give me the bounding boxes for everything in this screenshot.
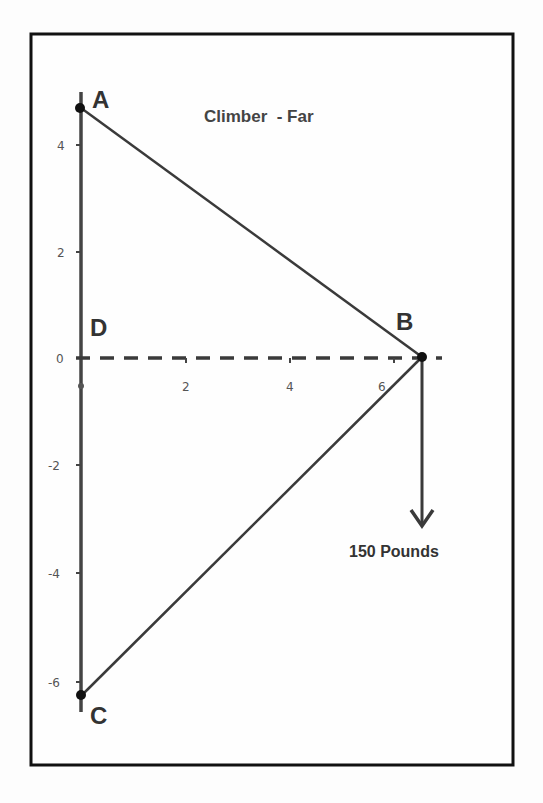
point-c — [76, 690, 86, 700]
label-c: C — [90, 702, 107, 729]
y-tick-neg4: -4 — [48, 567, 60, 581]
x-tick-4: 4 — [286, 380, 294, 394]
label-b: B — [396, 308, 413, 335]
label-d: D — [90, 314, 107, 341]
diagram-frame — [31, 34, 513, 765]
diagram-title: Climber - Far — [204, 107, 314, 126]
y-tick-0: 0 — [56, 352, 64, 366]
x-tick-2: 2 — [182, 380, 190, 394]
y-tick-neg6: -6 — [48, 676, 60, 690]
y-tick-2: 2 — [57, 246, 65, 260]
y-tick-neg2: -2 — [48, 459, 60, 473]
point-a — [75, 103, 85, 113]
force-diagram: 4 2 0 -2 -4 -6 2 4 6 A B D C Climber - F… — [0, 0, 543, 803]
force-label: 150 Pounds — [349, 543, 439, 560]
x-tick-6: 6 — [378, 380, 386, 394]
point-b — [417, 352, 427, 362]
y-tick-4: 4 — [57, 139, 65, 153]
label-a: A — [92, 86, 109, 113]
origin-marker — [78, 383, 84, 389]
